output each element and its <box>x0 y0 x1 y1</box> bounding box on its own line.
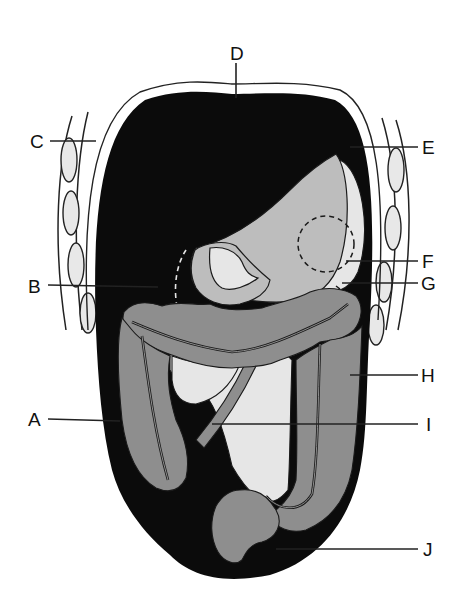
label-b: B <box>28 276 41 297</box>
label-f: F <box>422 251 434 272</box>
label-j: J <box>423 539 433 560</box>
label-g: G <box>421 273 436 294</box>
abdominal-organs-diagram: A B C D E F G H I J <box>0 0 460 615</box>
label-h: H <box>421 365 435 386</box>
label-e: E <box>422 137 435 158</box>
label-a: A <box>28 409 41 430</box>
label-d: D <box>230 43 244 64</box>
label-i: I <box>426 414 431 435</box>
label-c: C <box>30 131 44 152</box>
left-ribs <box>58 112 96 333</box>
